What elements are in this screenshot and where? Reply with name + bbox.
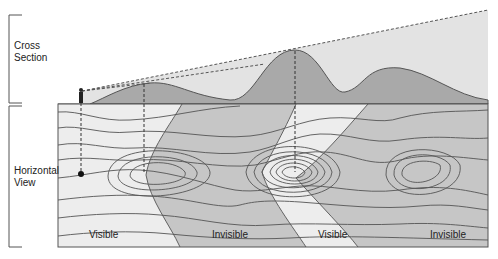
region-label-invisible-2: Invisible bbox=[430, 229, 466, 240]
region-label-visible-1: Visible bbox=[89, 229, 118, 240]
horizontal-view-label: Horizontal View bbox=[14, 165, 59, 189]
region-label-visible-2: Visible bbox=[318, 229, 347, 240]
region-label-invisible-1: Invisible bbox=[212, 229, 248, 240]
cross-section-label: Cross Section bbox=[14, 40, 47, 64]
observer-icon bbox=[79, 88, 83, 103]
viewshed-diagram bbox=[0, 0, 498, 259]
observer-location-dot bbox=[78, 171, 84, 177]
